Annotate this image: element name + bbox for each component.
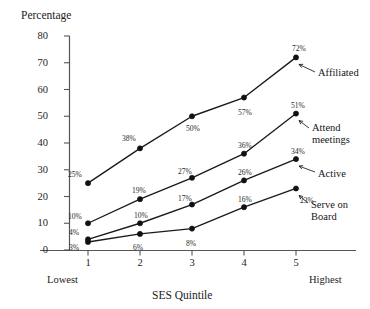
y-axis-title: Percentage: [21, 10, 71, 22]
data-label-serve-on-board-q2: 6%: [133, 244, 143, 252]
data-label-attend-meetings-q5: 51%: [291, 102, 305, 110]
series-label-attend-meetings-text: Attend meetings: [312, 122, 350, 145]
chart-figure: Percentage 80 70 60 50 40 30 20 10 0 1 2…: [0, 0, 370, 309]
data-label-affiliated-q3: 50%: [186, 125, 200, 133]
data-label-serve-on-board-q5: 23%: [300, 197, 314, 205]
data-label-attend-meetings-q1: 10%: [68, 213, 82, 221]
data-label-active-q2: 10%: [134, 212, 148, 220]
data-label-attend-meetings-q4: 36%: [238, 142, 252, 150]
x-axis-endcap-lowest: Lowest: [47, 275, 78, 286]
y-tick-label-30: 30: [26, 165, 48, 176]
y-tick-label-40: 40: [26, 138, 48, 149]
series-label-serve-on-board-text: Serve on Board: [311, 199, 348, 222]
y-tick-label-10: 10: [26, 218, 48, 229]
data-label-affiliated-q5: 72%: [292, 45, 306, 53]
y-tick-label-20: 20: [26, 192, 48, 203]
data-label-affiliated-q1: 25%: [68, 171, 82, 179]
y-tick-label-0: 0: [26, 245, 48, 256]
series-label-affiliated: Affiliated: [318, 67, 359, 79]
data-label-active-q4: 26%: [238, 169, 252, 177]
y-tick-label-70: 70: [26, 58, 48, 69]
series-label-serve-on-board: Serve on Board: [311, 199, 369, 223]
y-tick-label-80: 80: [26, 31, 48, 42]
data-label-serve-on-board-q3: 8%: [186, 240, 196, 248]
x-tick-label-4: 4: [234, 258, 254, 269]
data-label-affiliated-q2: 38%: [122, 135, 136, 143]
y-tick-label-60: 60: [26, 85, 48, 96]
data-label-attend-meetings-q2: 19%: [132, 187, 146, 195]
data-label-attend-meetings-q3: 27%: [178, 168, 192, 176]
series-label-active: Active: [318, 168, 346, 180]
data-label-serve-on-board-q4: 16%: [238, 196, 252, 204]
x-tick-label-3: 3: [182, 258, 202, 269]
y-tick-label-50: 50: [26, 111, 48, 122]
data-label-active-q5: 34%: [291, 148, 305, 156]
x-tick-label-5: 5: [286, 258, 306, 269]
x-axis-endcap-highest: Highest: [309, 275, 342, 286]
data-label-affiliated-q4: 57%: [238, 109, 252, 117]
data-label-active-q3: 17%: [178, 195, 192, 203]
x-tick-label-1: 1: [78, 258, 98, 269]
x-axis-title: SES Quintile: [152, 290, 212, 302]
x-tick-label-2: 2: [130, 258, 150, 269]
data-label-active-q1: 4%: [69, 229, 79, 237]
series-label-attend-meetings: Attend meetings: [312, 122, 368, 146]
data-label-serve-on-board-q1: 3%: [69, 244, 79, 252]
